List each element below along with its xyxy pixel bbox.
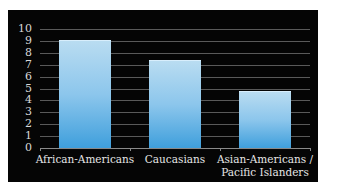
x-tick-mark xyxy=(40,148,41,151)
y-tick-label: 8 xyxy=(12,47,32,59)
gridline xyxy=(40,29,310,30)
y-tick-label: 7 xyxy=(12,59,32,71)
x-axis-line xyxy=(40,148,310,149)
y-tick-label: 9 xyxy=(12,35,32,47)
y-tick-label: 5 xyxy=(12,83,32,95)
x-tick-mark xyxy=(310,148,311,151)
x-category-label: Asian-Americans / Pacific Islanders xyxy=(210,153,320,179)
y-tick-label: 4 xyxy=(12,94,32,106)
plot-area: 012345678910African-AmericansCaucasiansA… xyxy=(40,29,310,148)
y-tick-label: 10 xyxy=(12,23,32,35)
y-tick-label: 2 xyxy=(12,118,32,130)
x-tick-mark xyxy=(130,148,131,151)
chart-panel: 012345678910African-AmericansCaucasiansA… xyxy=(8,10,318,182)
y-tick-label: 3 xyxy=(12,106,32,118)
y-tick-label: 0 xyxy=(12,142,32,154)
bar-caucasians xyxy=(149,60,201,148)
y-tick-label: 6 xyxy=(12,71,32,83)
bar-asian-americans-pacific-islanders xyxy=(239,91,291,148)
x-tick-mark xyxy=(220,148,221,151)
bar-african-americans xyxy=(59,40,111,148)
y-tick-label: 1 xyxy=(12,130,32,142)
